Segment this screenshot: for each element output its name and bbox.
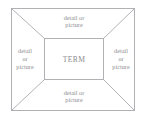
frayer-model-diagram: detail or picture detail or picture TERM… bbox=[0, 0, 146, 119]
inner-rectangle bbox=[45, 39, 104, 80]
diagram-canvas bbox=[0, 0, 146, 119]
outer-rectangle bbox=[12, 9, 135, 111]
diagonal-bottom-left bbox=[12, 80, 45, 111]
diagonal-top-right bbox=[104, 9, 135, 39]
diagonal-top-left bbox=[12, 9, 45, 39]
diagonal-bottom-right bbox=[104, 80, 135, 111]
